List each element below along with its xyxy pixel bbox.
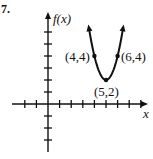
curve-arrow-icon (120, 24, 126, 31)
point-label-4-4: (4,4) (65, 50, 90, 63)
point-marker (104, 78, 108, 82)
x-axis-label: x (143, 107, 149, 120)
y-axis-arrow-icon (45, 12, 51, 19)
point-label-6-4: (6,4) (121, 50, 146, 63)
curve-arrow-icon (87, 24, 93, 31)
labeled-point-markers (92, 54, 120, 82)
point-label-5-2: (5,2) (94, 85, 119, 98)
point-marker (92, 54, 96, 58)
parabola-graph (0, 0, 153, 159)
point-marker (115, 54, 119, 58)
axes (12, 14, 146, 152)
y-axis-label: f(x) (53, 12, 71, 25)
